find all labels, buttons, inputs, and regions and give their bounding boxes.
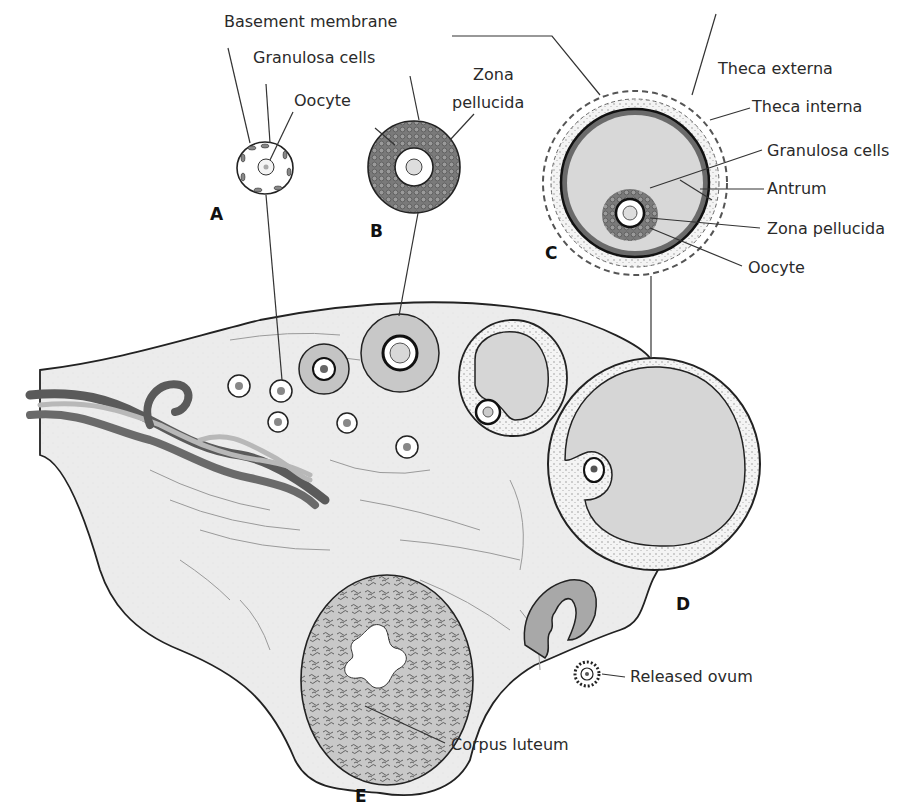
- label-oocyte-a: Oocyte: [294, 91, 351, 110]
- follicle-stage-a: [237, 142, 293, 194]
- label-theca-externa: Theca externa: [717, 59, 833, 78]
- label-zona-line1: Zona: [473, 65, 514, 84]
- label-oocyte-c: Oocyte: [748, 258, 805, 277]
- follicle-small: [270, 380, 292, 402]
- label-theca-interna: Theca interna: [751, 97, 862, 116]
- graafian-follicle-in-ovary: [548, 358, 760, 570]
- label-granulosa-cells-a: Granulosa cells: [253, 48, 375, 67]
- stage-label-a: A: [210, 204, 224, 224]
- follicle-small: [268, 412, 288, 432]
- label-antrum: Antrum: [767, 179, 827, 198]
- stage-label-b: B: [370, 221, 383, 241]
- follicle-small: [228, 375, 250, 397]
- follicle-small: [337, 413, 357, 433]
- stage-label-d: D: [676, 594, 690, 614]
- follicle-stage-c: [543, 91, 727, 275]
- label-basement-membrane: Basement membrane: [224, 12, 397, 31]
- stage-label-c: C: [545, 243, 557, 263]
- label-granulosa-cells-c: Granulosa cells: [767, 141, 889, 160]
- corpus-luteum: [301, 575, 473, 785]
- label-zona-pellucida-c: Zona pellucida: [767, 219, 885, 238]
- primary-follicle-in-ovary: [299, 344, 349, 394]
- stage-label-e: E: [355, 786, 367, 806]
- label-zona-line2: pellucida: [452, 93, 524, 112]
- secondary-follicle-in-ovary: [361, 314, 439, 392]
- label-corpus-luteum: Corpus luteum: [451, 735, 569, 754]
- released-ovum: [575, 662, 599, 686]
- label-released-ovum: Released ovum: [630, 667, 753, 686]
- early-antral-follicle-in-ovary: [459, 320, 567, 436]
- follicle-stage-b: [368, 121, 460, 213]
- follicle-small: [396, 436, 418, 458]
- ovarian-follicle-diagram: Basement membrane Granulosa cells Oocyte…: [0, 0, 919, 807]
